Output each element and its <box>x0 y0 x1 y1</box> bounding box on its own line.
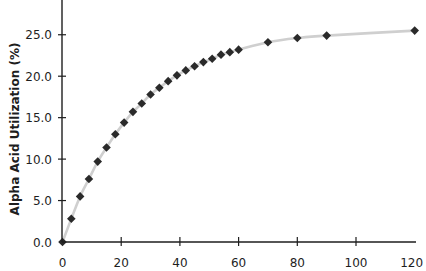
x-tick-label: 60 <box>231 256 246 270</box>
data-point-diamond <box>217 50 226 59</box>
y-tick-label: 20.0 <box>25 70 52 84</box>
data-point-diamond <box>322 31 331 40</box>
data-point-diamond <box>234 45 243 54</box>
x-tick-label: 100 <box>345 256 368 270</box>
data-point-diamond <box>199 58 208 67</box>
alpha-acid-utilization-chart: 020406080100120 0.05.010.015.020.025.0 A… <box>0 0 426 271</box>
y-axis-title: Alpha Acid Utilization (%) <box>8 43 22 216</box>
y-axis-ticks: 0.05.010.015.020.025.0 <box>25 28 66 249</box>
y-tick-label: 5.0 <box>33 194 52 208</box>
x-tick-label: 120 <box>400 256 423 270</box>
data-point-diamond <box>190 62 199 71</box>
y-tick-label: 25.0 <box>25 28 52 42</box>
data-point-diamond <box>410 26 419 35</box>
x-tick-label: 20 <box>114 256 129 270</box>
data-point-diamond <box>264 38 273 47</box>
x-tick-label: 40 <box>172 256 187 270</box>
data-point-diamond <box>208 54 217 63</box>
data-point-diamond <box>225 48 234 57</box>
data-point-diamond <box>76 192 85 201</box>
x-tick-label: 0 <box>59 256 67 270</box>
axes <box>62 0 416 242</box>
x-tick-label: 80 <box>290 256 305 270</box>
y-tick-label: 10.0 <box>25 153 52 167</box>
data-point-diamond <box>293 34 302 43</box>
y-tick-label: 0.0 <box>33 236 52 250</box>
data-point-diamond <box>67 214 76 223</box>
y-tick-label: 15.0 <box>25 111 52 125</box>
